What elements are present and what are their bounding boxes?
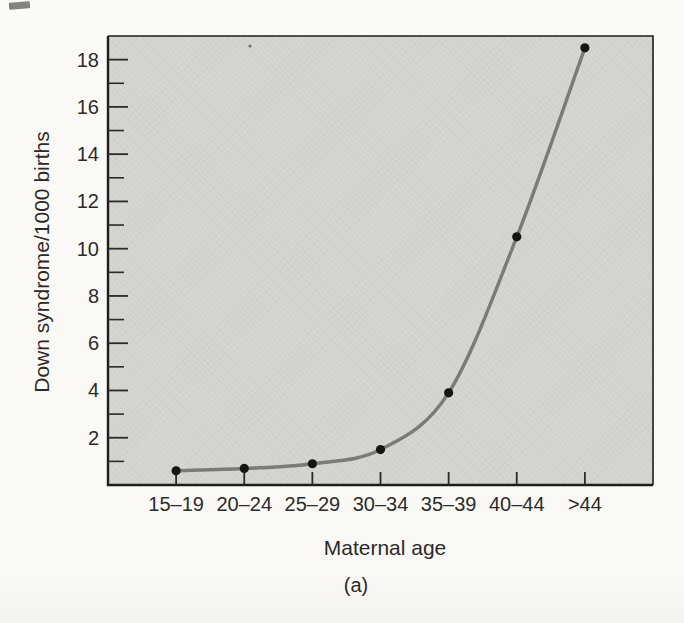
y-tick-label: 14 <box>77 143 99 165</box>
x-tick-label: >44 <box>568 493 602 515</box>
y-axis-title: Down syndrome/1000 births <box>30 131 53 392</box>
data-point <box>580 43 589 52</box>
x-tick-label: 35–39 <box>421 493 477 515</box>
data-point <box>240 464 249 473</box>
x-tick-label: 30–34 <box>353 493 409 515</box>
y-tick-label: 12 <box>77 190 99 212</box>
y-tick-label: 8 <box>88 285 99 307</box>
y-tick-label: 10 <box>77 238 99 260</box>
x-tick-label: 15–19 <box>148 493 204 515</box>
plot-background <box>108 36 653 485</box>
figure-caption: (a) <box>344 574 368 596</box>
down-syndrome-line-chart: 2468101214161815–1920–2425–2930–3435–394… <box>0 0 684 623</box>
y-tick-label: 2 <box>88 427 99 449</box>
data-point <box>376 445 385 454</box>
data-point <box>512 232 521 241</box>
scan-speck <box>248 44 251 47</box>
x-axis-title: Maternal age <box>324 536 447 559</box>
x-tick-label: 25–29 <box>285 493 341 515</box>
scan-artifact-mark <box>9 1 30 9</box>
y-tick-label: 4 <box>88 379 99 401</box>
scanned-figure-page: 2468101214161815–1920–2425–2930–3435–394… <box>0 0 684 623</box>
data-point <box>308 459 317 468</box>
y-tick-label: 16 <box>77 96 99 118</box>
data-point <box>172 466 181 475</box>
data-point <box>444 388 453 397</box>
x-tick-label: 40–44 <box>489 493 545 515</box>
plot-area: 2468101214161815–1920–2425–2930–3435–394… <box>77 36 653 515</box>
y-tick-label: 18 <box>77 49 99 71</box>
y-tick-label: 6 <box>88 332 99 354</box>
x-tick-label: 20–24 <box>216 493 272 515</box>
